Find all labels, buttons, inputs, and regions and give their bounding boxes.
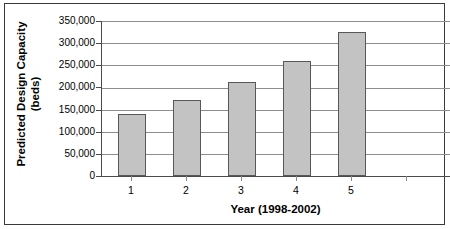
x-tick-mark [186, 176, 187, 181]
bar-series [102, 21, 450, 176]
bar-year-3 [228, 82, 256, 176]
x-axis-title: Year (1998-2002) [101, 203, 450, 215]
plot-area [101, 21, 450, 177]
y-tick-label: 0 [89, 170, 95, 182]
y-axis-title-line-1: Predicted Design Capacity [14, 21, 28, 166]
bar-year-5 [338, 32, 366, 176]
y-tick-label: 150,000 [59, 104, 95, 116]
bar-year-2 [173, 100, 201, 176]
x-tick-mark [406, 176, 407, 181]
x-axis-tick-marks [101, 176, 450, 182]
y-tick-label: 50,000 [64, 148, 95, 160]
bar-year-4 [283, 61, 311, 176]
y-tick-label: 350,000 [59, 15, 95, 27]
y-tick-label: 200,000 [59, 81, 95, 93]
x-tick-label-4: 4 [276, 184, 316, 196]
y-tick-label: 250,000 [59, 59, 95, 71]
y-axis-title-line-2: (beds) [28, 77, 42, 112]
x-axis-tick-labels: 1 2 3 4 5 [101, 184, 450, 200]
x-tick-label-1: 1 [111, 184, 151, 196]
x-tick-mark [241, 176, 242, 181]
chart-screenshot: Predicted Design Capacity (beds) 350,000… [0, 0, 450, 229]
chart-frame: Predicted Design Capacity (beds) 350,000… [4, 3, 445, 225]
x-tick-mark [296, 176, 297, 181]
x-tick-mark [351, 176, 352, 181]
y-tick-label: 300,000 [59, 37, 95, 49]
bar-year-1 [118, 114, 146, 176]
x-tick-label-2: 2 [166, 184, 206, 196]
y-tick-label: 100,000 [59, 126, 95, 138]
x-tick-label-3: 3 [221, 184, 261, 196]
y-axis-tick-labels: 350,000 300,000 250,000 200,000 150,000 … [43, 15, 101, 182]
x-tick-mark [131, 176, 132, 181]
y-axis-title: Predicted Design Capacity (beds) [10, 4, 46, 184]
x-tick-label-5: 5 [331, 184, 371, 196]
